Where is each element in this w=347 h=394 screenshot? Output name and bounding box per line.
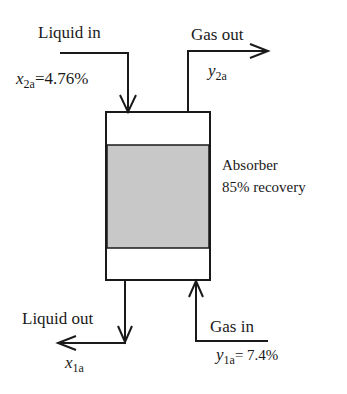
absorber-diagram-canvas [0, 0, 347, 394]
unit-spec: 85% recovery [222, 180, 306, 195]
gas-out-label: Gas out [191, 26, 243, 43]
liquid-out-var: x [65, 353, 73, 372]
gas-out-var: y [208, 61, 216, 80]
gas-in-sub: 1a [224, 353, 235, 367]
liquid-in-composition: x2a=4.76% [16, 70, 88, 90]
liquid-in-label: Liquid in [38, 24, 101, 41]
unit-name: Absorber [222, 158, 278, 173]
gas-in-label: Gas in [210, 318, 254, 335]
gas-in-composition: y1a= 7.4% [216, 346, 278, 366]
packed-section [107, 145, 209, 248]
gas-in-var: y [216, 345, 224, 364]
gas-in-value: = 7.4% [235, 347, 278, 363]
gas-out-sub: 2a [216, 69, 227, 83]
liquid-out-composition: x1a [65, 354, 84, 374]
liquid-in-var: x [16, 69, 24, 88]
liquid-in-sub: 2a [24, 77, 35, 91]
liquid-out-sub: 1a [73, 361, 84, 375]
gas-out-line [188, 51, 266, 112]
gas-out-composition: y2a [208, 62, 227, 82]
liquid-out-label: Liquid out [22, 310, 93, 327]
liquid-in-value: =4.76% [35, 69, 89, 88]
